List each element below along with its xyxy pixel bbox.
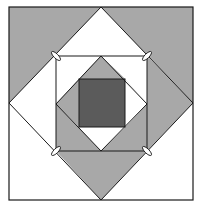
nested-squares-diagram	[0, 0, 199, 208]
dark-center-square	[79, 79, 125, 127]
